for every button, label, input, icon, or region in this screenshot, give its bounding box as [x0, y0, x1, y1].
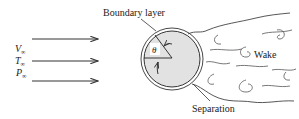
boundary-layer-label: Boundary layer [103, 7, 166, 18]
wake-lower-boundary [192, 84, 294, 103]
wake-eddies [206, 30, 296, 92]
wake-label: Wake [254, 49, 277, 60]
theta-label: θ [152, 45, 157, 55]
freestream-arrows [32, 39, 98, 81]
flow-diagram: V∞ T∞ P∞ θ Boundary layer [0, 0, 299, 119]
pressure-label: P∞ [15, 67, 27, 79]
temperature-label: T∞ [15, 55, 26, 67]
wake-upper-boundary [188, 13, 290, 34]
sphere-body [144, 31, 200, 87]
separation-label: Separation [192, 103, 235, 114]
boundary-layer-leader [141, 19, 156, 31]
velocity-label: V∞ [15, 43, 26, 55]
wake-boundaries [188, 13, 294, 103]
